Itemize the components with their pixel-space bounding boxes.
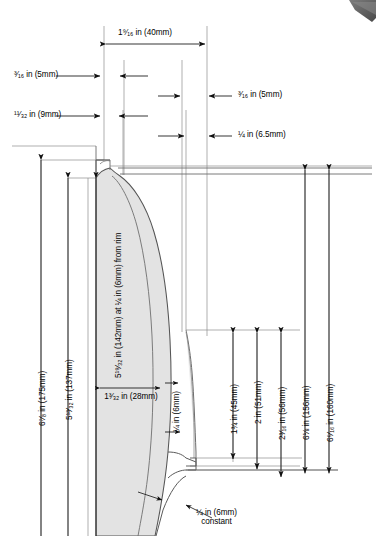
- label-right-lower-thickness: ¼ in (6.5mm): [238, 130, 286, 139]
- dim-right-leaders: [158, 96, 232, 136]
- label-foot-width-text: 1³⁄₃₂ in (28mm): [104, 392, 158, 401]
- dim-vertical-left: [41, 160, 68, 536]
- corner-wedge-icon: [349, 0, 376, 22]
- label-left-wall-thickness: ¹¹⁄₃₂ in (9mm): [14, 110, 61, 119]
- label-height-outer: 6⁷⁄₈ in (175mm): [38, 371, 47, 426]
- dim-left-leaders: [56, 76, 148, 116]
- bowl-outer-profile: [96, 160, 171, 536]
- label-top-width: 1⁹⁄₁₆ in (40mm): [118, 28, 172, 37]
- label-dim-45: 1¾ in (45mm): [230, 384, 239, 434]
- technical-drawing-canvas: 1⁹⁄₁₆ in (40mm) ³⁄₁₆ in (5mm) ¹¹⁄₃₂ in (…: [0, 0, 376, 536]
- label-dim-160: 6⁵⁄₁₆ in (160mm): [326, 384, 335, 442]
- construction-lines: [12, 26, 372, 536]
- label-constant-note-line1: ¼ in (6mm): [196, 508, 237, 517]
- label-foot-width: 1³⁄₃₂ in (28mm): [104, 392, 158, 401]
- rim-structure: [96, 146, 372, 178]
- label-dim-156: 6⅛ in (156mm): [302, 386, 311, 440]
- label-left-rim-thickness: ³⁄₁₆ in (5mm): [14, 70, 58, 79]
- label-dim-56: 2³⁄₁₆ in (56mm): [278, 387, 287, 440]
- label-foot-thickness: ¼ in (6mm): [172, 391, 181, 432]
- label-dim-51: 2 in (51mm): [254, 381, 263, 424]
- label-constant-note: ¼ in (6mm) constant: [196, 508, 237, 526]
- label-bowl-diameter: 5¹⁹⁄₃₂ in (142mm) at ¼ in (6mm) from rim: [114, 233, 123, 378]
- drawing-svg: [0, 0, 376, 536]
- label-constant-note-line2: constant: [196, 517, 237, 526]
- label-height-inner: 5¹³⁄₃₂ in (137mm): [65, 359, 74, 420]
- label-right-upper-thickness: ³⁄₁₆ in (5mm): [238, 90, 282, 99]
